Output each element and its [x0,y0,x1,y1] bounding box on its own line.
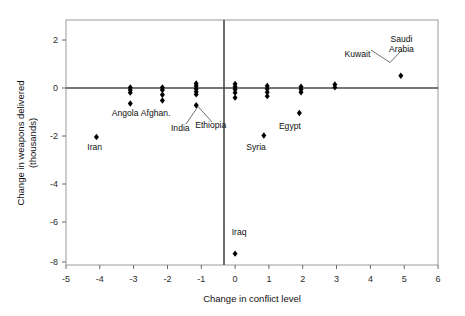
x-tick-label: 0 [233,274,238,284]
point-annotation-label: Iraq [232,227,247,237]
x-tick-label: 6 [435,274,440,284]
point-annotation-label: Syria [246,142,266,152]
y-axis-title-line1: Change in weapons delivered [15,80,26,205]
point-annotation-label: Egypt [279,121,302,131]
y-axis-ticks: 2 0 -2 -4 -6 -8 [50,35,66,267]
y-tick-label: 2 [53,35,58,45]
point-annotation-label: Angola [112,108,139,118]
point-annotation-label: Saudi [390,34,412,44]
x-tick-label: -3 [130,274,138,284]
x-axis-ticks: -5 -4 -3 -2 -1 0 1 2 3 4 5 6 [62,265,441,284]
x-tick-label: 4 [368,274,373,284]
x-tick-label: 5 [402,274,407,284]
point-annotation-label: Ethiopia [195,120,226,130]
y-tick-label: -2 [50,131,58,141]
point-annotation-label: Kuwait [345,49,371,59]
point-annotation-label: India [171,123,190,133]
x-tick-label: -1 [197,274,205,284]
y-tick-label: -8 [50,257,58,267]
y-axis-title-line2: (thousands) [27,118,38,168]
y-tick-label: 0 [53,83,58,93]
chart-figure: 2 0 -2 -4 -6 -8 -5 -4 -3 -2 -1 [0,0,465,316]
x-tick-label: 3 [334,274,339,284]
point-annotation-label: Arabia [389,44,414,54]
x-tick-label: -4 [96,274,104,284]
scatter-plot-svg: 2 0 -2 -4 -6 -8 -5 -4 -3 -2 -1 [0,0,465,316]
x-tick-label: 2 [300,274,305,284]
x-axis-title: Change in conflict level [203,293,301,304]
point-annotation-label: Afghan. [141,108,171,118]
point-annotation-label: Iran [87,142,102,152]
y-tick-label: -6 [50,217,58,227]
x-tick-label: 1 [266,274,271,284]
x-tick-label: -2 [163,274,171,284]
y-tick-label: -4 [50,179,58,189]
x-tick-label: -5 [62,274,70,284]
